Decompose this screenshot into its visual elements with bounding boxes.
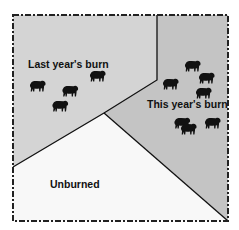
label-this-years-burn: This year's burn: [147, 98, 228, 110]
label-last-years-burn: Last year's burn: [28, 58, 109, 70]
label-unburned: Unburned: [50, 178, 100, 190]
burn-diagram: Last year's burn This year's burn Unburn…: [0, 0, 239, 230]
